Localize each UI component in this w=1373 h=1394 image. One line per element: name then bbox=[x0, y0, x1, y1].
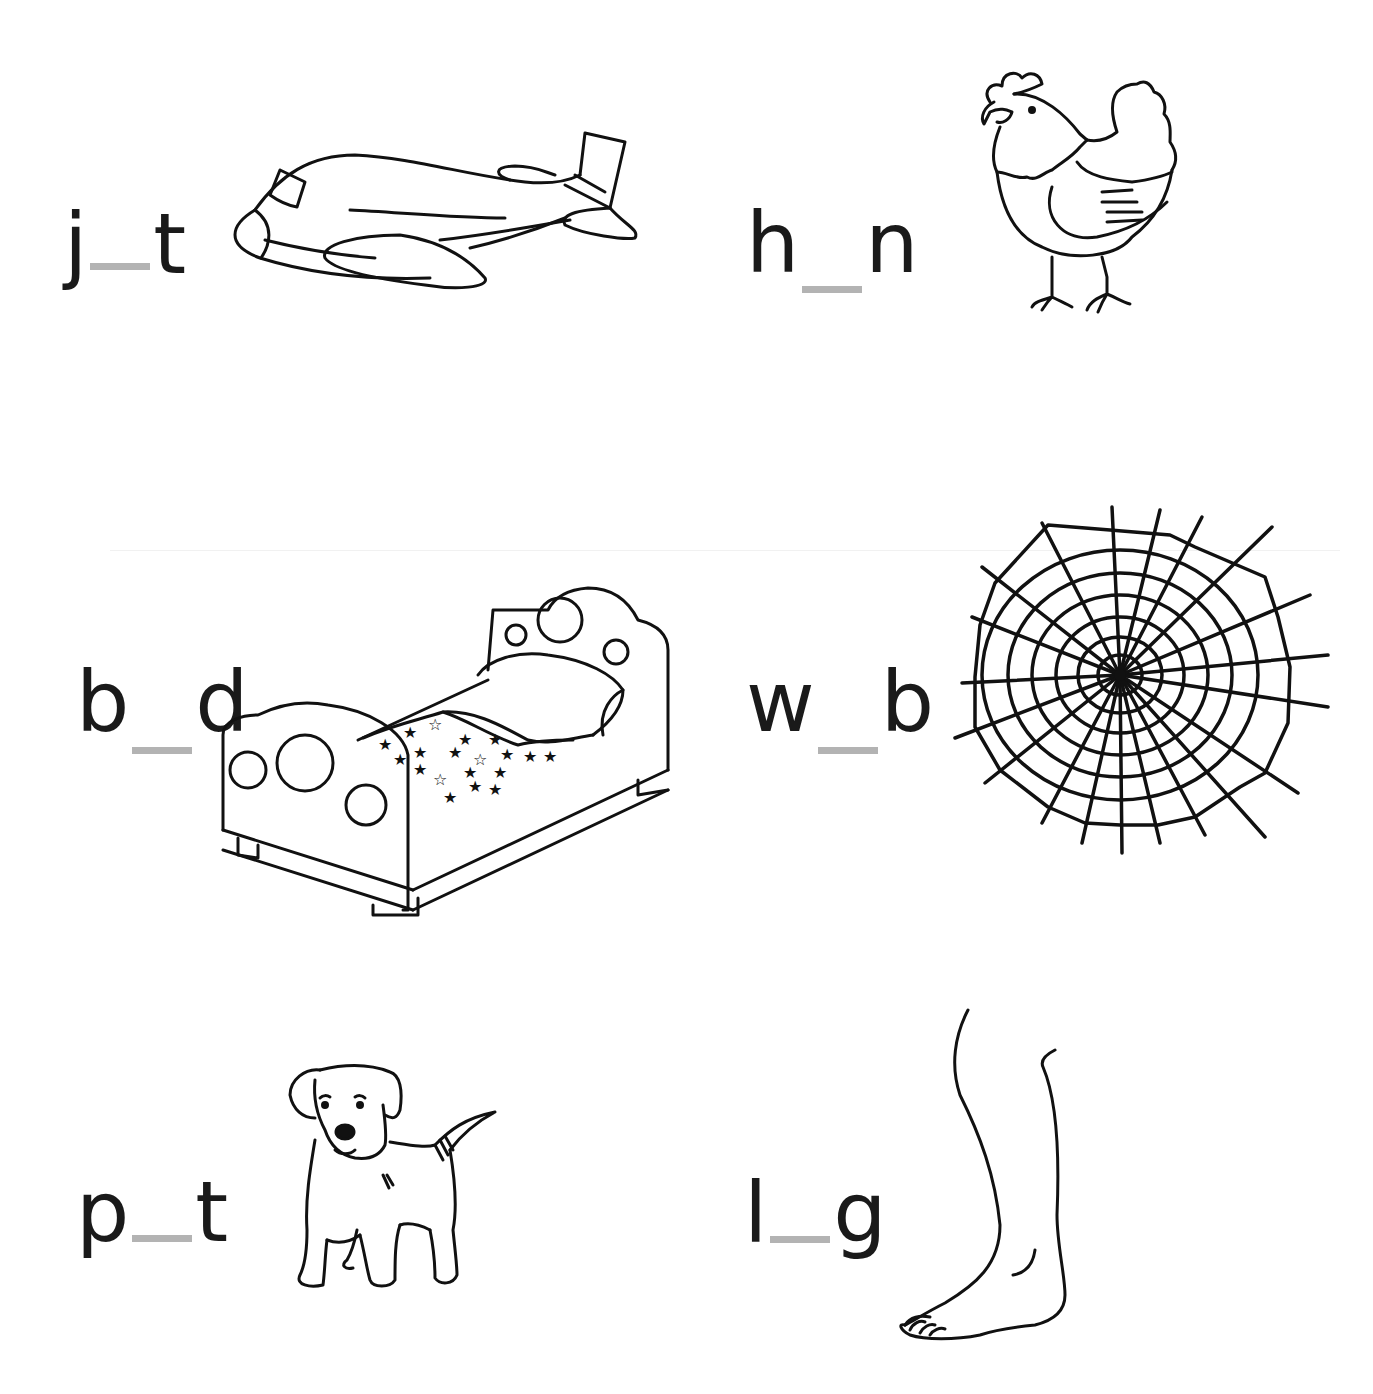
leg-icon bbox=[895, 1005, 1085, 1345]
airplane-icon bbox=[225, 130, 640, 300]
letter-first: h bbox=[746, 201, 799, 285]
word-leg: l g bbox=[744, 1165, 887, 1255]
airplane-picture bbox=[225, 130, 640, 300]
bed-picture: ★★☆ ★★ ★★★ ☆★★★ ★☆★★ ★★★ bbox=[218, 580, 678, 915]
svg-text:★: ★ bbox=[523, 747, 537, 766]
letter-first: b bbox=[76, 660, 129, 744]
missing-letter-blank[interactable] bbox=[132, 1235, 192, 1242]
letter-first: l bbox=[744, 1171, 767, 1255]
letter-last: t bbox=[153, 202, 186, 286]
letter-last: b bbox=[881, 660, 934, 744]
letter-last: n bbox=[865, 201, 918, 285]
word-jet: j t bbox=[64, 190, 186, 286]
missing-letter-blank[interactable] bbox=[802, 286, 862, 293]
svg-text:★: ★ bbox=[500, 745, 514, 764]
svg-text:★: ★ bbox=[403, 723, 417, 742]
spider-web-picture bbox=[930, 495, 1310, 855]
svg-text:★: ★ bbox=[443, 788, 457, 807]
svg-text:☆: ☆ bbox=[428, 715, 442, 734]
letter-last: t bbox=[195, 1170, 228, 1254]
missing-letter-blank[interactable] bbox=[818, 747, 878, 754]
spider-web-icon bbox=[930, 495, 1310, 855]
puppy-picture bbox=[285, 1060, 500, 1290]
letter-last: g bbox=[833, 1171, 886, 1255]
svg-text:☆: ☆ bbox=[433, 770, 447, 789]
word-web: w b bbox=[746, 660, 934, 744]
word-pet: p t bbox=[76, 1170, 228, 1254]
hen-icon bbox=[972, 62, 1182, 322]
svg-text:★: ★ bbox=[448, 743, 462, 762]
svg-text:★: ★ bbox=[468, 777, 482, 796]
letter-first: p bbox=[76, 1170, 129, 1254]
svg-text:★: ★ bbox=[378, 735, 392, 754]
leg-picture bbox=[895, 1005, 1085, 1345]
svg-text:★: ★ bbox=[543, 747, 557, 766]
svg-text:★: ★ bbox=[413, 760, 427, 779]
letter-first: w bbox=[746, 660, 815, 744]
svg-text:★: ★ bbox=[488, 780, 502, 799]
puppy-icon bbox=[285, 1060, 500, 1290]
letter-first: j bbox=[64, 202, 87, 286]
hen-picture bbox=[972, 62, 1182, 322]
word-hen: h n bbox=[746, 185, 919, 285]
missing-letter-blank[interactable] bbox=[90, 263, 150, 270]
missing-letter-blank[interactable] bbox=[132, 747, 192, 754]
svg-text:★: ★ bbox=[393, 750, 407, 769]
missing-letter-blank[interactable] bbox=[770, 1236, 830, 1243]
bed-icon: ★★☆ ★★ ★★★ ☆★★★ ★☆★★ ★★★ bbox=[218, 580, 678, 915]
